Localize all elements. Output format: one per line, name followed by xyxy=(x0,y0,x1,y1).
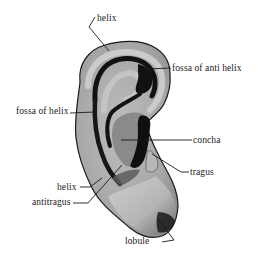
label-fossa-of-helix: fossa of helix xyxy=(16,106,69,117)
label-helix-top: helix xyxy=(97,13,117,24)
ear-anatomy-diagram: helix fossa of anti helix fossa of helix… xyxy=(0,0,259,261)
label-fossa-of-anti-helix: fossa of anti helix xyxy=(172,63,242,74)
label-tragus: tragus xyxy=(190,167,214,178)
label-lobule: lobule xyxy=(125,236,149,247)
label-concha: concha xyxy=(193,135,221,146)
ear-illustration xyxy=(0,0,259,261)
label-antitragus: antitragus xyxy=(32,197,70,208)
label-helix-lower: helix xyxy=(57,182,77,193)
